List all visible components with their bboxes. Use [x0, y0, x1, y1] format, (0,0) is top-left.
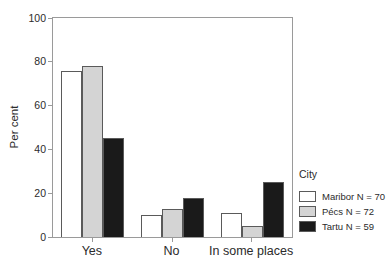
bar-tartu-yes: [103, 138, 124, 237]
legend-entry-tartu: Tartu N = 59: [299, 221, 391, 231]
legend: City Maribor N = 70Pécs N = 72Tartu N = …: [299, 168, 391, 236]
x-category-label-in-some-places: In some places: [191, 244, 311, 258]
x-tick-yes: [92, 238, 93, 242]
y-tick-80: [48, 61, 52, 62]
y-tick-label-20: 20: [8, 187, 46, 200]
bar-pecs-yes: [82, 66, 103, 237]
bar-maribor-in-some-places: [221, 213, 242, 237]
x-tick-in-some-places: [251, 238, 252, 242]
y-tick-0: [48, 237, 52, 238]
y-tick-40: [48, 149, 52, 150]
legend-swatch-maribor: [299, 191, 316, 202]
y-tick-20: [48, 193, 52, 194]
bar-maribor-yes: [61, 71, 82, 237]
y-tick-label-60: 60: [8, 99, 46, 112]
bar-maribor-no: [141, 215, 162, 237]
legend-entry-pecs: Pécs N = 72: [299, 206, 391, 216]
bar-tartu-in-some-places: [263, 182, 284, 237]
y-tick-100: [48, 18, 52, 19]
legend-label-pecs: Pécs N = 72: [322, 206, 374, 217]
legend-entries: Maribor N = 70Pécs N = 72Tartu N = 59: [299, 191, 391, 231]
bar-tartu-no: [183, 198, 204, 237]
y-tick-60: [48, 105, 52, 106]
plot-area: [52, 17, 293, 238]
y-tick-label-40: 40: [8, 143, 46, 156]
legend-title: City: [299, 168, 391, 180]
y-tick-label-80: 80: [8, 55, 46, 68]
bar-pecs-in-some-places: [242, 226, 263, 237]
y-tick-label-100: 100: [8, 12, 46, 25]
legend-swatch-tartu: [299, 221, 316, 232]
legend-label-tartu: Tartu N = 59: [322, 221, 374, 232]
legend-label-maribor: Maribor N = 70: [322, 191, 385, 202]
x-tick-no: [172, 238, 173, 242]
legend-swatch-pecs: [299, 206, 316, 217]
y-tick-label-0: 0: [8, 231, 46, 244]
bar-chart: Per cent City Maribor N = 70Pécs N = 72T…: [0, 0, 391, 271]
bar-pecs-no: [162, 209, 183, 237]
legend-entry-maribor: Maribor N = 70: [299, 191, 391, 201]
